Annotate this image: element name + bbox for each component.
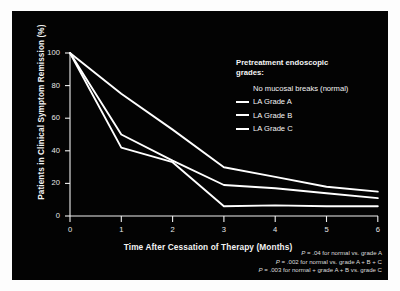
x-tick-4: 4 <box>268 225 282 234</box>
note-text-3: = .003 for normal + grade A + B vs. grad… <box>263 266 382 273</box>
legend-title: Pretreatment endoscopic grades: <box>236 58 386 78</box>
chart-legend: Pretreatment endoscopic grades: No mucos… <box>236 58 386 135</box>
x-tick-6: 6 <box>371 225 385 234</box>
y-axis-title: Patients in Clinical Symptom Remission (… <box>37 22 47 202</box>
note-text-2: = .002 for normal vs. grade A + B + C <box>280 258 382 265</box>
legend-item-grade-a: LA Grade A <box>236 95 386 109</box>
figure-page: 100 80 60 40 20 0 0 1 2 3 4 5 6 Patients… <box>0 0 400 291</box>
legend-label-normal: No mucosal breaks (normal) <box>253 84 348 93</box>
legend-title-line1: Pretreatment endoscopic <box>236 58 386 68</box>
legend-title-line2: grades: <box>236 68 386 78</box>
legend-item-grade-c: LA Grade C <box>236 122 386 136</box>
statistics-notes: P = .04 for normal vs. grade A P = .002 … <box>259 249 382 275</box>
line-swatch-icon-grade-c <box>236 128 249 130</box>
line-swatch-icon-normal <box>236 87 249 89</box>
x-axis-ticks <box>70 216 378 222</box>
note-text-1: = .04 for normal vs. grade A <box>305 249 382 256</box>
line-swatch-icon-grade-a <box>236 101 249 103</box>
x-tick-0: 0 <box>63 225 77 234</box>
y-tick-0: 0 <box>34 211 60 220</box>
legend-item-grade-b: LA Grade B <box>236 108 386 122</box>
y-axis-ticks <box>65 53 70 216</box>
note-line-1: P = .04 for normal vs. grade A <box>259 249 382 258</box>
x-tick-3: 3 <box>217 225 231 234</box>
legend-label-grade-b: LA Grade B <box>253 111 292 120</box>
x-tick-2: 2 <box>166 225 180 234</box>
line-chart-plot <box>12 11 388 280</box>
legend-item-normal: No mucosal breaks (normal) <box>236 81 386 95</box>
note-line-2: P = .002 for normal vs. grade A + B + C <box>259 258 382 267</box>
legend-label-grade-a: LA Grade A <box>253 97 292 106</box>
x-tick-5: 5 <box>320 225 334 234</box>
note-line-3: P = .003 for normal + grade A + B vs. gr… <box>259 266 382 275</box>
line-swatch-icon-grade-b <box>236 114 249 116</box>
legend-label-grade-c: LA Grade C <box>253 124 293 133</box>
x-tick-1: 1 <box>114 225 128 234</box>
chart-panel: 100 80 60 40 20 0 0 1 2 3 4 5 6 Patients… <box>12 11 388 280</box>
